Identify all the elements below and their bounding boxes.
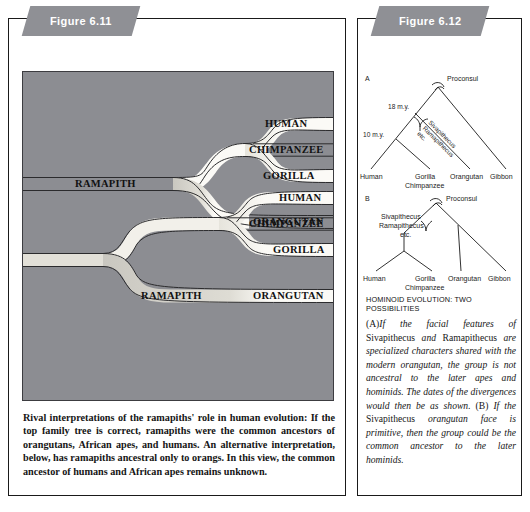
caption-a-roman-2: Ramapithecus: [443, 332, 497, 343]
caption-b-roman-1: Sivapithecus: [366, 413, 415, 424]
figure-tab-6-12: Figure 6.12: [371, 6, 490, 36]
tip-label-gibbon-a: Gibbon: [490, 173, 513, 180]
tip-label-human-bottom: HUMAN: [279, 192, 321, 203]
clade-label-b-line-1: Sivapithecus: [381, 213, 421, 221]
tip-label-chimpanzee-b: Chimpanzee: [405, 284, 444, 292]
tip-label-orangutan-a: Orangutan: [450, 173, 483, 181]
caption-a-text-1: If the facial features of: [379, 318, 516, 329]
cladogram-b: [376, 199, 506, 271]
label-proconsul-b: Proconsul: [446, 195, 478, 202]
figure-6-11-caption: Rival interpretations of the ramapiths' …: [23, 411, 335, 478]
tip-label-gorilla-top: GORILLA: [263, 170, 315, 181]
label-proconsul-a: Proconsul: [447, 75, 479, 82]
caption-a-roman-1: Sivapithecus: [366, 332, 415, 343]
figure-tab-label-6-11: Figure 6.11: [50, 15, 112, 27]
panel-letter-a: A: [365, 75, 370, 82]
tip-label-human-top: HUMAN: [265, 118, 307, 129]
tip-label-gorilla-a: Gorilla: [415, 173, 435, 180]
figure-6-12-heading: HOMINOID EVOLUTION: TWO POSSIBILITIES: [366, 295, 516, 313]
tip-label-chimpanzee-bottom: CHIMPANZEE: [249, 218, 324, 229]
time-label-18my: 18 m.y.: [388, 103, 409, 111]
figure-tab-label-6-12: Figure 6.12: [399, 15, 461, 27]
root-label-ramapith-top: RAMAPITH: [75, 178, 136, 189]
tip-label-gorilla-bottom: GORILLA: [273, 244, 325, 255]
clade-label-b-line-2: Ramapithecus: [379, 222, 424, 230]
root-label-ramapith-bottom: RAMAPITH: [141, 290, 202, 301]
figure-panel-6-12: A Proconsul 18 m.y. 10 m.y. Sivapithecus…: [357, 18, 522, 496]
tip-label-chimpanzee-top: CHIMPANZEE: [249, 144, 324, 155]
tip-label-human-a: Human: [360, 173, 383, 180]
time-label-10my: 10 m.y.: [363, 131, 384, 139]
clade-label-b-line-3: etc.: [400, 231, 411, 238]
figure-tab-6-11: Figure 6.11: [22, 6, 141, 36]
tip-label-orangutan-bottom: ORANGUTAN: [253, 290, 324, 301]
tip-label-chimpanzee-a: Chimpanzee: [405, 182, 444, 190]
panel-letter-b: B: [365, 195, 370, 202]
tip-label-orangutan-b: Orangutan: [448, 275, 481, 283]
caption-b-text-1: If the: [488, 400, 516, 411]
caption-marker-b: (B): [476, 400, 489, 411]
figure-6-12-caption: (A)If the facial features of Sivapithecu…: [366, 317, 516, 467]
caption-a-text-2: and: [415, 332, 443, 343]
figure-panel-6-11: HUMAN CHIMPANZEE GORILLA ORANGUTAN RAMAP…: [8, 18, 346, 496]
tip-label-gorilla-b: Gorilla: [415, 275, 435, 282]
branch-unknown-ancestor-bottom: [103, 224, 219, 260]
clade-label-a: Sivapithecus Ramapithecus etc.: [416, 119, 461, 164]
tip-label-gibbon-b: Gibbon: [488, 275, 511, 282]
tip-label-human-b: Human: [363, 275, 386, 282]
hominoid-cladogram-diagram: A Proconsul 18 m.y. 10 m.y. Sivapithecus…: [358, 61, 523, 291]
hominoid-cladogram-svg: A Proconsul 18 m.y. 10 m.y. Sivapithecus…: [358, 61, 523, 293]
caption-marker-a: (A): [366, 318, 379, 329]
ramapith-tree-diagram: HUMAN CHIMPANZEE GORILLA ORANGUTAN RAMAP…: [22, 71, 334, 401]
